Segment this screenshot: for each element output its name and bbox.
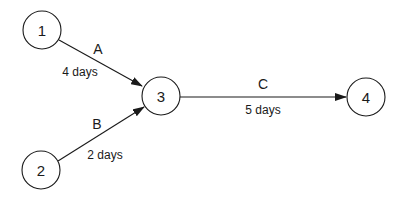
network-diagram: A 4 days B 2 days C 5 days 1 2 3 4 — [0, 0, 407, 201]
node-3: 3 — [142, 77, 180, 115]
node-2-label: 2 — [37, 162, 45, 179]
edge-b-duration-label: 2 days — [87, 148, 122, 162]
node-4-label: 4 — [362, 89, 370, 106]
node-1: 1 — [23, 11, 61, 49]
edge-c-name-label: C — [258, 76, 268, 92]
edge-a: A 4 days — [59, 40, 142, 86]
edge-b-name-label: B — [92, 116, 101, 132]
edge-a-duration-label: 4 days — [62, 65, 97, 79]
edge-a-name-label: A — [93, 41, 103, 57]
edge-c: C 5 days — [180, 76, 346, 117]
edge-b: B 2 days — [58, 107, 144, 162]
node-2: 2 — [22, 151, 60, 189]
node-3-label: 3 — [157, 88, 165, 105]
node-4: 4 — [347, 78, 385, 116]
node-1-label: 1 — [38, 22, 46, 39]
edge-c-duration-label: 5 days — [245, 103, 280, 117]
